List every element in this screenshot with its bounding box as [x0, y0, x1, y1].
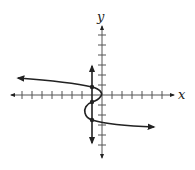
graph: x y — [0, 0, 195, 170]
y-axis-label: y — [96, 9, 105, 24]
intersection-point — [90, 118, 94, 122]
y-axis — [98, 26, 106, 158]
x-axis-label: x — [178, 87, 186, 102]
curve — [18, 78, 154, 127]
intersection-point — [90, 85, 94, 89]
intersection-point — [90, 100, 94, 104]
